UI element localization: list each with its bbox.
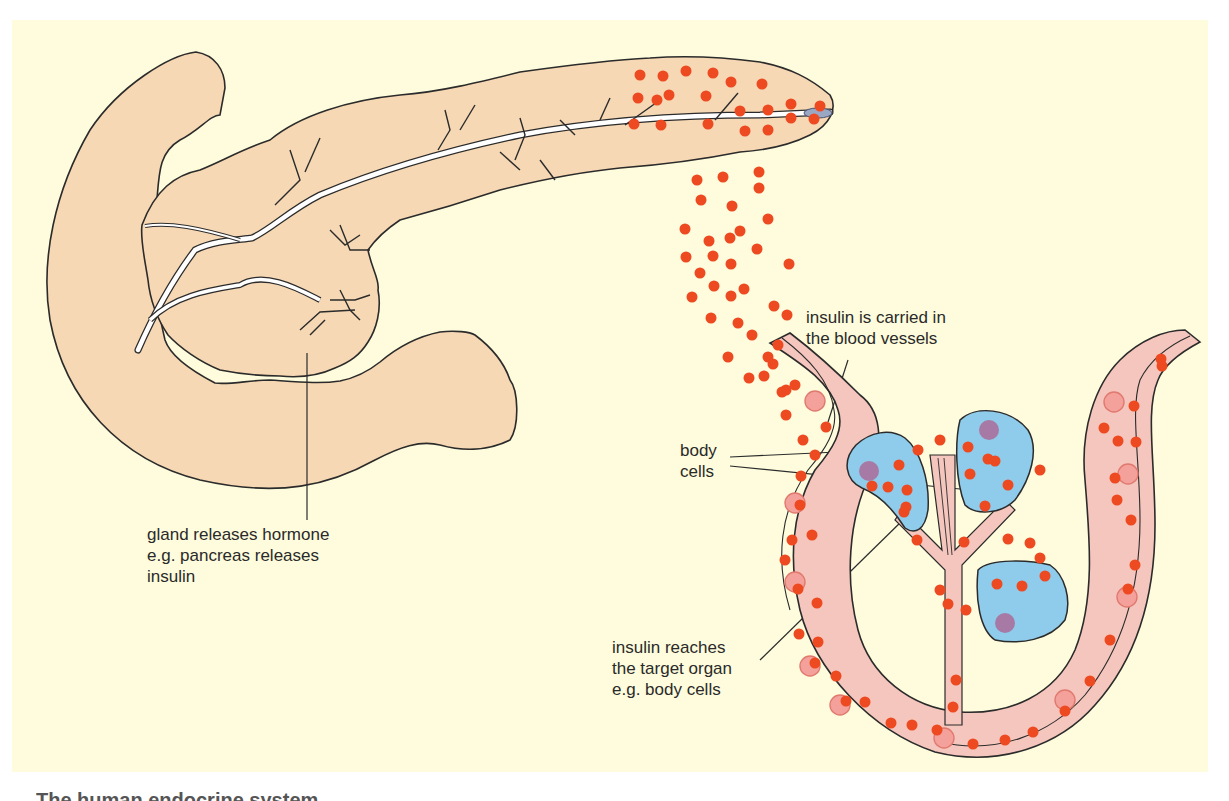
insulin-dot bbox=[735, 226, 746, 237]
insulin-dot bbox=[681, 66, 692, 77]
insulin-dot bbox=[1028, 727, 1039, 738]
insulin-dot bbox=[793, 584, 804, 595]
insulin-dot bbox=[726, 259, 737, 270]
insulin-dot bbox=[1060, 706, 1071, 717]
insulin-dot bbox=[867, 481, 878, 492]
insulin-dot bbox=[656, 120, 667, 131]
insulin-dot bbox=[902, 485, 913, 496]
insulin-dot bbox=[658, 71, 669, 82]
insulin-dot bbox=[831, 671, 842, 682]
insulin-dot bbox=[752, 244, 763, 255]
insulin-dot bbox=[1157, 361, 1168, 372]
insulin-dot bbox=[1035, 465, 1046, 476]
insulin-dot bbox=[759, 371, 770, 382]
insulin-dot bbox=[726, 77, 737, 88]
insulin-dot bbox=[633, 93, 644, 104]
insulin-dot bbox=[1110, 473, 1121, 484]
insulin-dot bbox=[901, 502, 912, 513]
insulin-dot bbox=[968, 739, 979, 750]
insulin-dot bbox=[726, 291, 737, 302]
insulin-dot bbox=[798, 435, 809, 446]
insulin-dot bbox=[784, 259, 795, 270]
nucleus-2 bbox=[979, 420, 999, 440]
insulin-dot bbox=[727, 201, 738, 212]
insulin-dot bbox=[629, 119, 640, 130]
insulin-dot bbox=[907, 720, 918, 731]
insulin-dot bbox=[1000, 735, 1011, 746]
insulin-dot bbox=[635, 70, 646, 81]
insulin-dot bbox=[757, 79, 768, 90]
insulin-dot bbox=[807, 530, 818, 541]
insulin-dot bbox=[841, 696, 852, 707]
insulin-dot bbox=[886, 718, 897, 729]
pancreas bbox=[47, 52, 833, 488]
insulin-dot bbox=[1123, 584, 1134, 595]
insulin-dot bbox=[1040, 571, 1051, 582]
insulin-dot bbox=[796, 471, 807, 482]
insulin-dot bbox=[1129, 401, 1140, 412]
insulin-dot bbox=[681, 252, 692, 263]
insulin-dot bbox=[763, 214, 774, 225]
insulin-dot bbox=[990, 456, 1001, 467]
insulin-dot bbox=[739, 284, 750, 295]
figure-caption: The human endocrine system bbox=[36, 789, 318, 801]
insulin-dot bbox=[754, 183, 765, 194]
insulin-dot bbox=[1085, 676, 1096, 687]
insulin-dot bbox=[706, 313, 717, 324]
insulin-dot bbox=[786, 99, 797, 110]
insulin-dot bbox=[1017, 581, 1028, 592]
label-gland-releases-hormone: gland releases hormone e.g. pancreas rel… bbox=[147, 524, 329, 587]
insulin-dot bbox=[790, 380, 801, 391]
insulin-dot bbox=[794, 629, 805, 640]
insulin-dot bbox=[883, 482, 894, 493]
insulin-dot bbox=[786, 113, 797, 124]
insulin-dot bbox=[733, 318, 744, 329]
figure-canvas: gland releases hormone e.g. pancreas rel… bbox=[0, 0, 1229, 801]
insulin-dot bbox=[781, 410, 792, 421]
insulin-dot bbox=[723, 352, 734, 363]
insulin-dot bbox=[680, 224, 691, 235]
insulin-dot bbox=[787, 535, 798, 546]
insulin-dot bbox=[959, 537, 970, 548]
insulin-dot bbox=[780, 555, 791, 566]
insulin-dot bbox=[894, 460, 905, 471]
label-insulin-reaches-target: insulin reaches the target organ e.g. bo… bbox=[612, 637, 732, 700]
insulin-dot bbox=[692, 175, 703, 186]
insulin-dot bbox=[935, 435, 946, 446]
insulin-dot bbox=[709, 281, 720, 292]
insulin-dot bbox=[708, 251, 719, 262]
insulin-dot bbox=[695, 268, 706, 279]
insulin-dot bbox=[763, 125, 774, 136]
insulin-dot bbox=[754, 167, 765, 178]
insulin-dot bbox=[744, 373, 755, 384]
insulin-dot bbox=[932, 725, 943, 736]
insulin-dot bbox=[809, 114, 820, 125]
insulin-dot bbox=[912, 535, 923, 546]
insulin-dot bbox=[1003, 480, 1014, 491]
insulin-dot bbox=[951, 675, 962, 686]
insulin-dot bbox=[725, 233, 736, 244]
insulin-dot bbox=[913, 445, 924, 456]
insulin-dot bbox=[812, 598, 823, 609]
body-cell-3 bbox=[977, 561, 1068, 642]
insulin-dot bbox=[992, 579, 1003, 590]
insulin-dot bbox=[1035, 553, 1046, 564]
insulin-dot bbox=[810, 450, 821, 461]
insulin-dot bbox=[773, 340, 784, 351]
insulin-dot bbox=[1131, 437, 1142, 448]
insulin-dot bbox=[708, 68, 719, 79]
insulin-dot bbox=[747, 330, 758, 341]
insulin-dot bbox=[769, 301, 780, 312]
insulin-dot bbox=[963, 442, 974, 453]
insulin-dot bbox=[664, 90, 675, 101]
vessel-u-outer bbox=[770, 330, 1200, 757]
insulin-dot bbox=[696, 195, 707, 206]
pancreas-tail bbox=[142, 57, 834, 377]
insulin-dot bbox=[943, 599, 954, 610]
insulin-dot bbox=[718, 172, 729, 183]
insulin-dot bbox=[782, 310, 793, 321]
insulin-dot bbox=[768, 359, 779, 370]
insulin-dot bbox=[1126, 515, 1137, 526]
insulin-dot bbox=[961, 605, 972, 616]
insulin-dot bbox=[1099, 423, 1110, 434]
